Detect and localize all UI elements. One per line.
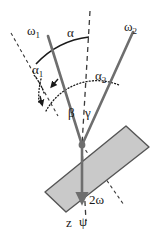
omega1-label: ω1 <box>27 23 40 40</box>
alpha-arc <box>36 37 89 64</box>
omega2-label: ω2 <box>124 19 137 36</box>
omega1-ray <box>48 36 82 145</box>
interaction-vertex-point <box>79 142 86 149</box>
alpha1-label: α1 <box>32 62 43 79</box>
vertical-dashed-axis <box>82 11 90 145</box>
alpha1-lower-arrow <box>40 96 42 104</box>
two-omega-label: 2ω <box>89 192 105 207</box>
z-label: z <box>66 215 72 230</box>
omega1-subscript: 1 <box>36 30 41 40</box>
alpha2-label: α2 <box>95 68 106 85</box>
diagram-canvas: ω1 ω2 α α1 α2 β γ 2ω z ψ <box>0 0 158 231</box>
psi-label: ψ <box>79 214 87 229</box>
two-omega-symbol: ω <box>96 192 105 207</box>
beta-label: β <box>68 105 75 120</box>
alpha-label: α <box>67 25 74 40</box>
omega2-subscript: 2 <box>133 26 138 36</box>
alpha2-subscript: 2 <box>102 75 107 85</box>
alpha1-subscript: 1 <box>39 69 44 79</box>
ray-diagram-figure: ω1 ω2 α α1 α2 β γ 2ω z ψ <box>0 0 158 231</box>
gamma-label: γ <box>84 105 91 120</box>
alpha1-arrow-tick <box>52 79 58 86</box>
